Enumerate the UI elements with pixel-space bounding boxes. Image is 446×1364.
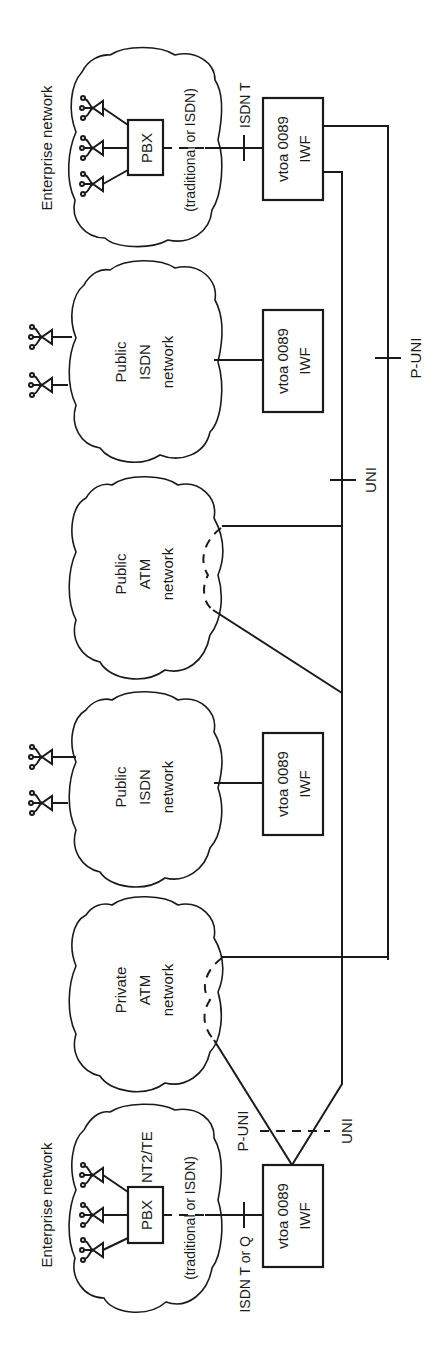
cloud-label: network: [159, 335, 176, 388]
interface-p-uni-bottom: P-UNI: [234, 1111, 251, 1152]
phone-icon: [29, 791, 52, 815]
public-atm-network: Public ATM network: [69, 477, 223, 679]
public-isdn-network-2: Public ISDN network: [29, 692, 222, 887]
iwf-label: vtoa 0089: [274, 1183, 291, 1249]
phone-icon: [29, 373, 52, 397]
interface-isdn-t: ISDN T: [237, 82, 253, 128]
cloud-label: Private: [112, 967, 129, 1014]
interface-uni-bottom: UNI: [338, 1118, 355, 1144]
enterprise-caption-bottom: Enterprise network: [38, 1142, 55, 1268]
iwf-label: vtoa 0089: [274, 328, 291, 394]
iwf-box-public-isdn-2: vtoa 0089 IWF: [263, 733, 323, 835]
iwf-label: vtoa 0089: [274, 751, 291, 817]
enterprise-network-bottom: Enterprise network PBX NT2/TE (tradition…: [38, 1104, 222, 1312]
cloud-label: network: [159, 547, 176, 600]
pbx-role-label: NT2/TE: [138, 1131, 155, 1183]
cloud-label: ISDN: [136, 769, 153, 805]
cloud-label: network: [159, 963, 176, 1016]
interface-uni-right: UNI: [362, 467, 379, 493]
enterprise-network-top: Enterprise network PBX (traditional or I…: [38, 48, 222, 247]
private-atm-network: Private ATM network: [69, 897, 223, 1092]
cloud-label: Public: [112, 553, 129, 594]
enterprise-sublabel-top: (traditional or ISDN): [182, 88, 198, 212]
iwf-box-bottom: vtoa 0089 IWF: [263, 1165, 323, 1267]
iwf-box-top: vtoa 0089 IWF: [263, 98, 323, 200]
iwf-label: IWF: [296, 347, 313, 375]
iwf-label: vtoa 0089: [274, 116, 291, 182]
pbx-label-bottom: PBX: [138, 1200, 155, 1230]
cloud-label: network: [159, 760, 176, 813]
phone-icon: [29, 745, 52, 769]
iwf-box-public-isdn-1: vtoa 0089 IWF: [263, 310, 323, 412]
iwf-label: IWF: [296, 770, 313, 798]
cloud-label: ISDN: [136, 344, 153, 380]
pbx-label-top: PBX: [138, 133, 155, 163]
iwf-label: IWF: [296, 1202, 313, 1230]
public-isdn-network-1: Public ISDN network: [29, 261, 222, 462]
network-diagram: Enterprise network PBX (traditional or I…: [0, 0, 446, 1364]
enterprise-caption-top: Enterprise network: [38, 85, 55, 211]
interface-p-uni-right: P-UNI: [407, 338, 424, 379]
cloud-label: Public: [112, 766, 129, 807]
interface-isdn-t-or-q: ISDN T or Q: [237, 1236, 253, 1313]
enterprise-sublabel-bottom: (traditional or ISDN): [182, 1156, 198, 1280]
cloud-label: ATM: [136, 559, 153, 590]
iwf-label: IWF: [296, 135, 313, 163]
cloud-label: Public: [112, 341, 129, 382]
cloud-label: ATM: [136, 975, 153, 1006]
phone-icon: [29, 325, 52, 349]
